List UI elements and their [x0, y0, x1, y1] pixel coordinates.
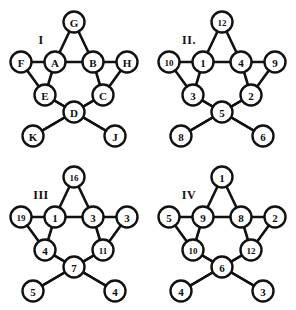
- graph-node-inner_left[interactable]: 1: [45, 207, 66, 228]
- graph-node-bottom_left[interactable]: 5: [23, 281, 44, 302]
- graph-node-inner_right[interactable]: B: [83, 52, 104, 73]
- graph-node-mid_right[interactable]: 11: [93, 240, 114, 261]
- node-label: 6: [260, 131, 266, 143]
- node-label: K: [29, 131, 38, 143]
- node-label: 1: [200, 57, 206, 69]
- graph-node-mid_left[interactable]: E: [35, 85, 56, 106]
- node-label: H: [123, 57, 132, 69]
- panel-roman-numeral: I: [38, 33, 43, 47]
- node-label: 6: [219, 262, 225, 274]
- graph-node-bottom_right[interactable]: J: [105, 126, 126, 147]
- pentagram-panel-2: II.121091432586: [148, 0, 296, 155]
- graph-node-apex[interactable]: 16: [64, 167, 85, 188]
- node-label: 10: [189, 246, 199, 256]
- graph-node-inner_right[interactable]: 4: [231, 52, 252, 73]
- node-label: 11: [99, 246, 108, 256]
- node-label: 7: [71, 262, 77, 274]
- graph-node-bottom_left[interactable]: 4: [171, 281, 192, 302]
- graph-node-inner_right[interactable]: 3: [83, 207, 104, 228]
- node-group: 152981012643: [159, 167, 286, 302]
- node-label: 12: [247, 246, 257, 256]
- node-label: 5: [30, 286, 36, 298]
- panel-roman-numeral: IV: [182, 188, 196, 202]
- node-label: 10: [165, 58, 175, 68]
- graph-node-bottom_left[interactable]: 8: [171, 126, 192, 147]
- node-label: 8: [238, 212, 244, 224]
- graph-node-mid_right[interactable]: 2: [241, 85, 262, 106]
- graph-node-bottom_center[interactable]: D: [64, 102, 85, 123]
- node-label: 1: [52, 212, 58, 224]
- node-label: J: [112, 131, 118, 143]
- node-label: 4: [42, 245, 48, 257]
- node-label: C: [99, 90, 107, 102]
- node-label: 2: [272, 212, 278, 224]
- node-label: 9: [272, 57, 278, 69]
- graph-node-upper_left[interactable]: F: [11, 52, 32, 73]
- node-label: 16: [70, 173, 80, 183]
- graph-node-mid_right[interactable]: C: [93, 85, 114, 106]
- graph-node-mid_right[interactable]: 12: [241, 240, 262, 261]
- graph-node-upper_right[interactable]: 2: [265, 207, 286, 228]
- graph-node-bottom_left[interactable]: K: [23, 126, 44, 147]
- node-label: 12: [218, 18, 228, 28]
- pentagram-panel-1: IGFHABECDKJ: [0, 0, 148, 155]
- node-label: B: [89, 57, 97, 69]
- node-label: 5: [219, 107, 225, 119]
- node-label: 3: [260, 286, 266, 298]
- graph-node-mid_left[interactable]: 3: [183, 85, 204, 106]
- node-label: 5: [166, 212, 172, 224]
- pentagram-panel-4: IV152981012643: [148, 155, 296, 310]
- node-label: 3: [124, 212, 130, 224]
- node-label: 19: [17, 213, 27, 223]
- graph-node-inner_left[interactable]: 1: [193, 52, 214, 73]
- graph-node-mid_left[interactable]: 10: [183, 240, 204, 261]
- node-label: D: [70, 107, 78, 119]
- node-label: 8: [178, 131, 184, 143]
- node-label: 9: [200, 212, 206, 224]
- graph-node-upper_right[interactable]: H: [117, 52, 138, 73]
- graph-node-mid_left[interactable]: 4: [35, 240, 56, 261]
- pentagram-panel-3: III1619313411754: [0, 155, 148, 310]
- graph-node-apex[interactable]: G: [64, 12, 85, 33]
- panel-roman-numeral: III: [33, 188, 49, 202]
- node-group: 121091432586: [159, 12, 286, 147]
- node-label: 2: [248, 90, 254, 102]
- graph-node-inner_left[interactable]: A: [45, 52, 66, 73]
- node-label: 1: [219, 172, 225, 184]
- graph-node-upper_right[interactable]: 3: [117, 207, 138, 228]
- pentagram-figure: IGFHABECDKJII.121091432586III16193134117…: [0, 0, 296, 310]
- node-label: G: [70, 17, 79, 29]
- graph-node-inner_right[interactable]: 8: [231, 207, 252, 228]
- graph-node-inner_left[interactable]: 9: [193, 207, 214, 228]
- node-label: F: [18, 57, 25, 69]
- graph-node-bottom_right[interactable]: 3: [253, 281, 274, 302]
- graph-node-upper_right[interactable]: 9: [265, 52, 286, 73]
- graph-node-bottom_center[interactable]: 5: [212, 102, 233, 123]
- node-label: 4: [238, 57, 244, 69]
- node-label: A: [51, 57, 59, 69]
- graph-node-bottom_right[interactable]: 6: [253, 126, 274, 147]
- graph-node-apex[interactable]: 12: [212, 12, 233, 33]
- node-label: 3: [190, 90, 196, 102]
- graph-node-apex[interactable]: 1: [212, 167, 233, 188]
- node-label: 4: [178, 286, 184, 298]
- graph-node-bottom_right[interactable]: 4: [105, 281, 126, 302]
- node-group: 1619313411754: [11, 167, 138, 302]
- graph-node-upper_left[interactable]: 10: [159, 52, 180, 73]
- node-group: GFHABECDKJ: [11, 12, 138, 147]
- node-label: 4: [112, 286, 118, 298]
- panel-roman-numeral: II.: [182, 33, 196, 47]
- graph-node-bottom_center[interactable]: 6: [212, 257, 233, 278]
- graph-node-bottom_center[interactable]: 7: [64, 257, 85, 278]
- node-label: 3: [90, 212, 96, 224]
- graph-node-upper_left[interactable]: 5: [159, 207, 180, 228]
- node-label: E: [41, 90, 48, 102]
- graph-node-upper_left[interactable]: 19: [11, 207, 32, 228]
